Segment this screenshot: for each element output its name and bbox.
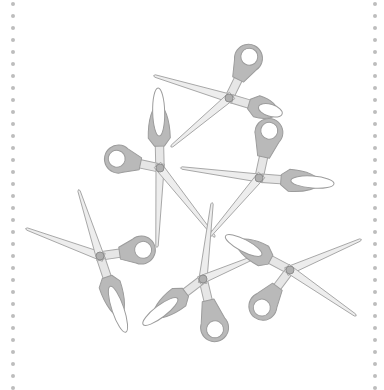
pivot-screw <box>199 275 207 283</box>
pivot-screw <box>225 94 233 102</box>
blade <box>284 264 356 316</box>
oval-handle <box>229 88 286 124</box>
scissors-d <box>26 190 158 336</box>
oval-handle <box>147 88 171 166</box>
pivot-screw <box>255 174 263 182</box>
round-handle <box>101 234 157 269</box>
oval-handle <box>91 255 137 335</box>
blade <box>181 167 264 183</box>
round-handle <box>102 142 160 181</box>
round-handle <box>218 40 267 102</box>
pivot-screw <box>286 266 294 274</box>
pivot-screw <box>156 164 164 172</box>
oval-handle <box>261 167 335 194</box>
scissors-f <box>220 226 361 326</box>
scissors-b <box>102 88 215 248</box>
round-handle <box>246 116 286 178</box>
oval-handle <box>137 272 208 333</box>
blade <box>207 172 265 239</box>
pivot-screw <box>96 252 104 260</box>
